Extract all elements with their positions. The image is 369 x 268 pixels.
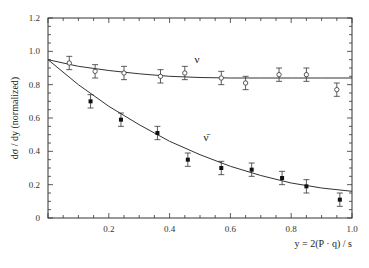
y-tick-label: 1.0 <box>29 46 41 56</box>
annotations: νν̄ <box>194 53 210 143</box>
data-point <box>185 153 191 166</box>
y-tick-label: 1.2 <box>29 13 40 23</box>
y-tick-label: 0 <box>36 213 41 223</box>
series-annotation: ν <box>194 53 199 65</box>
y-tick-label: 0.4 <box>29 146 41 156</box>
x-tick-label: 0.8 <box>286 224 298 234</box>
data-point <box>121 66 127 79</box>
data-point <box>92 65 98 78</box>
y-axis-title: dσ / dy (normalized) <box>9 77 21 159</box>
data-point <box>88 95 94 108</box>
data-point <box>157 70 163 83</box>
x-tick-label: 0.6 <box>225 224 237 234</box>
series-annotation: ν̄ <box>204 131 211 143</box>
x-tick-label: 0.2 <box>103 224 114 234</box>
chart: 00.20.40.60.81.01.2 0.20.40.60.81.0 νν̄ … <box>0 0 369 268</box>
data-point <box>218 71 224 84</box>
x-axis-title: y = 2(P · q) / s <box>295 238 353 250</box>
y-tick-label: 0.6 <box>29 113 41 123</box>
x-tick-label: 1.0 <box>346 224 358 234</box>
data-point <box>337 193 343 206</box>
data-point <box>276 68 282 81</box>
data-point <box>279 171 285 184</box>
data-point <box>303 68 309 81</box>
data-point <box>334 83 340 96</box>
data-point <box>182 66 188 79</box>
y-tick-labels: 00.20.40.60.81.01.2 <box>29 13 41 223</box>
y-tick-label: 0.2 <box>29 180 40 190</box>
data-point <box>249 163 255 176</box>
y-tick-label: 0.8 <box>29 80 41 90</box>
data-point <box>66 56 72 69</box>
x-tick-label: 0.4 <box>164 224 176 234</box>
x-tick-labels: 0.20.40.60.81.0 <box>103 224 358 234</box>
